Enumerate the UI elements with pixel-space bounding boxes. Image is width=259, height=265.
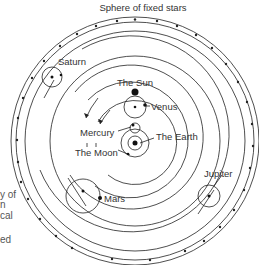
caption-fragment-3: cal: [0, 210, 13, 221]
mars-body: [98, 196, 102, 200]
mercury-epicycle: [130, 123, 140, 133]
caption-fragment-4: ed: [0, 234, 11, 245]
label-sun: The Sun: [117, 77, 153, 88]
caption-fragment-2: n: [0, 199, 6, 210]
earth-body: [133, 141, 138, 146]
geocentric-diagram: Sphere of fixed stars: [0, 0, 259, 265]
sun-body: [132, 89, 139, 96]
mercury-body: [132, 124, 135, 127]
label-mars: Mars: [104, 193, 125, 204]
fixed-stars: [16, 18, 254, 261]
label-saturn: Saturn: [58, 56, 86, 67]
mars-epicycle-center: [82, 190, 85, 193]
saturn-deferent-line: [44, 80, 54, 98]
diagram-title: Sphere of fixed stars: [99, 2, 186, 13]
saturn-body: [51, 76, 54, 79]
label-earth: The Earth: [156, 131, 198, 142]
jupiter-deferent-line: [198, 190, 214, 214]
saturn-point: [60, 74, 63, 77]
venus-epicycle-center: [134, 106, 137, 109]
venus-body: [143, 103, 147, 107]
jupiter-body: [208, 195, 211, 198]
label-jupiter: Jupiter: [204, 168, 233, 179]
moon-body: [127, 153, 130, 156]
label-moon: The Moon: [75, 147, 118, 158]
earth-leader: [140, 138, 154, 143]
label-venus: Venus: [151, 101, 178, 112]
label-mercury: Mercury: [80, 127, 115, 138]
